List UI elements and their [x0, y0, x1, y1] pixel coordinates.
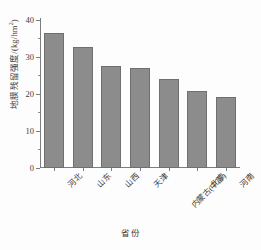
- x-axis-title: 省份: [0, 226, 261, 238]
- x-axis-tick-labels: 河北山东山西天津内蒙古(中部)北京河南: [40, 170, 240, 222]
- y-axis-title-exponent: 2: [8, 22, 14, 25]
- bar: [130, 68, 150, 168]
- bar: [159, 79, 179, 168]
- x-tick-label: 山西: [122, 170, 141, 189]
- y-tick-label: 40: [26, 15, 35, 25]
- x-tick-label: 河南: [236, 170, 255, 189]
- plot-area: 010203040: [40, 20, 240, 168]
- y-tick-label: 10: [26, 126, 35, 136]
- y-tick-label: 20: [26, 89, 35, 99]
- bar: [101, 66, 121, 168]
- y-tick-label: 30: [26, 52, 35, 62]
- bar: [187, 91, 207, 168]
- x-tick-label: 河北: [65, 170, 84, 189]
- y-axis-title-tail: ): [9, 19, 19, 22]
- bar-chart-figure: 地膜残留强度/(kg/hm2) 010203040 河北山东山西天津内蒙古(中部…: [0, 0, 261, 250]
- bar: [44, 33, 64, 168]
- y-axis-title: 地膜残留强度/(kg/hm2): [7, 4, 19, 124]
- x-tick-label: 天津: [151, 170, 170, 189]
- bar-series: [40, 20, 240, 168]
- y-tick-mark: [36, 168, 40, 169]
- y-axis-title-main: 地膜残留强度/(kg/hm: [9, 25, 19, 109]
- x-tick-label: 山东: [94, 170, 113, 189]
- bar: [216, 97, 236, 168]
- y-tick-label: 0: [30, 163, 34, 173]
- bar: [73, 47, 93, 168]
